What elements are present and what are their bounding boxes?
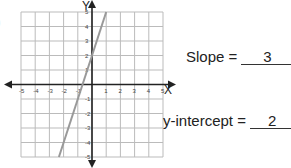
svg-text:1: 1 xyxy=(104,88,108,94)
svg-text:-5: -5 xyxy=(85,154,91,160)
slope-answer: 3 xyxy=(241,49,291,65)
svg-text:-5: -5 xyxy=(19,88,25,94)
coordinate-graph: XY -5-4-3-2-112345-5-4-3-2-112345 xyxy=(0,0,180,168)
intercept-label: y-intercept = xyxy=(163,112,246,129)
svg-text:-2: -2 xyxy=(85,111,91,117)
slope-row: Slope = 3 xyxy=(186,48,291,65)
svg-text:X: X xyxy=(164,83,172,97)
intercept-row: y-intercept = 2 xyxy=(163,112,291,129)
svg-text:-4: -4 xyxy=(33,88,39,94)
slope-label: Slope = xyxy=(186,48,237,65)
intercept-answer: 2 xyxy=(250,113,291,129)
svg-text:-3: -3 xyxy=(85,125,91,131)
svg-text:3: 3 xyxy=(133,88,137,94)
svg-text:-3: -3 xyxy=(47,88,53,94)
svg-text:-2: -2 xyxy=(62,88,68,94)
svg-text:-4: -4 xyxy=(85,140,91,146)
svg-text:2: 2 xyxy=(118,88,122,94)
svg-text:-1: -1 xyxy=(85,96,91,102)
svg-text:4: 4 xyxy=(147,88,151,94)
